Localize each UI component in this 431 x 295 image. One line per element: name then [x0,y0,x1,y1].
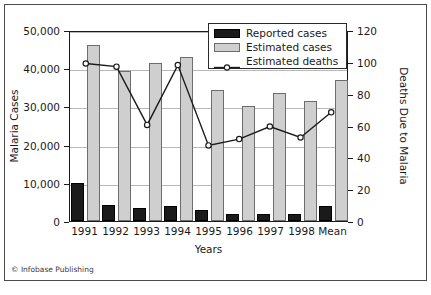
x-axis-tick-label: Mean [318,225,347,237]
legend-item-reported-cases: Reported cases [214,27,342,40]
legend-label-reported-cases: Reported cases [246,28,327,39]
data-point-marker [329,110,334,115]
data-point-marker [144,122,149,127]
y-axis-tick-label-right: 40 [357,152,370,164]
legend-swatch-estimated-deaths-icon [214,57,240,66]
y-axis-tick-label-left: 40,000 [0,63,60,75]
y-axis-tick-label-right: 80 [357,89,370,101]
y-axis-tickmark-right [348,63,353,64]
chart-legend: Reported cases Estimated cases Estimated… [208,23,347,69]
legend-label-estimated-deaths: Estimated deaths [246,56,338,67]
y-axis-tickmark-left [64,107,69,108]
y-axis-tick-label-right: 0 [357,216,364,228]
x-axis-tick-label: 1992 [102,225,129,237]
y-axis-title-right: Deaths Due to Malaria [398,67,410,185]
y-axis-tickmark-right [348,31,353,32]
y-axis-tick-label-right: 20 [357,184,370,196]
x-axis-tick-label: 1991 [71,225,98,237]
x-axis-title: Years [69,243,348,255]
legend-swatch-estimated-cases-icon [214,43,240,52]
y-axis-tickmark-right [348,222,353,223]
y-axis-title-left: Malaria Cases [8,89,20,162]
publisher-credit: © Infobase Publishing [11,265,94,274]
y-axis-tick-label-right: 120 [357,25,377,37]
y-axis-tickmark-right [348,190,353,191]
x-axis-tick-label: 1996 [226,225,253,237]
y-axis-tickmark-left [64,146,69,147]
data-point-marker [267,124,272,129]
data-point-marker [237,136,242,141]
x-axis-tick-label: 1997 [257,225,284,237]
data-point-marker [114,64,119,69]
x-axis-tick-label: 1995 [195,225,222,237]
y-axis-tick-label-left: 50,000 [0,25,60,37]
x-axis-tick-label: 1998 [288,225,315,237]
y-axis-tickmark-left [64,222,69,223]
legend-label-estimated-cases: Estimated cases [246,42,332,53]
legend-swatch-reported-cases-icon [214,29,240,38]
legend-item-estimated-cases: Estimated cases [214,41,342,54]
y-axis-tick-label-right: 60 [357,121,370,133]
legend-item-estimated-deaths: Estimated deaths [214,55,342,68]
y-axis-tickmark-right [348,95,353,96]
y-axis-tickmark-left [64,69,69,70]
chart-figure: 010,00020,00030,00040,00050,000020406080… [0,0,431,295]
y-axis-tickmark-left [64,31,69,32]
x-axis-tick-label: 1993 [133,225,160,237]
y-axis-tick-label-right: 100 [357,57,377,69]
y-axis-tick-label-left: 0 [0,216,60,228]
data-point-marker [298,135,303,140]
data-point-marker [175,62,180,67]
data-point-marker [83,61,88,66]
y-axis-tickmark-right [348,127,353,128]
data-point-marker [206,143,211,148]
y-axis-tickmark-right [348,158,353,159]
x-axis-tick-label: 1994 [164,225,191,237]
y-axis-tick-label-left: 10,000 [0,178,60,190]
y-axis-tickmark-left [64,184,69,185]
